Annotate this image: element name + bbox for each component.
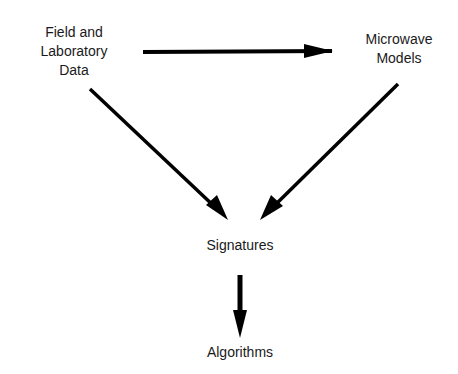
node-label-line: Algorithms — [190, 343, 290, 362]
node-algorithms: Algorithms — [190, 343, 290, 362]
node-label-line: Laboratory — [24, 42, 124, 61]
arrow-signatures-to-algorithms — [233, 275, 247, 338]
arrow-field-to-models — [143, 44, 333, 58]
node-label-line: Signatures — [190, 236, 290, 255]
node-label-line: Models — [349, 49, 449, 68]
node-microwave-models: Microwave Models — [349, 30, 449, 68]
arrow-models-to-signatures — [260, 84, 398, 220]
node-label-line: Microwave — [349, 30, 449, 49]
diagram-canvas: Field and Laboratory Data Microwave Mode… — [0, 0, 458, 374]
arrow-field-to-signatures — [90, 89, 228, 220]
node-field-laboratory-data: Field and Laboratory Data — [24, 23, 124, 80]
node-label-line: Field and — [24, 23, 124, 42]
node-signatures: Signatures — [190, 236, 290, 255]
node-label-line: Data — [24, 61, 124, 80]
